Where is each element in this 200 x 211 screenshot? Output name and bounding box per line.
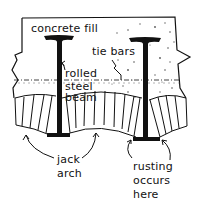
jack-arch-left xyxy=(15,94,56,135)
label-beam: beam xyxy=(65,91,97,104)
jack-arch-diagram: concrete fill tie bars rolled steel beam… xyxy=(0,0,200,211)
label-jack: jack xyxy=(56,153,80,166)
arrow-rusting-right xyxy=(162,140,170,160)
label-arch: arch xyxy=(57,167,82,180)
label-rusting: rusting xyxy=(133,160,173,173)
label-here: here xyxy=(133,188,159,201)
label-occurs: occurs xyxy=(133,174,170,187)
arrow-tie-bars xyxy=(112,60,121,80)
jack-arch-right xyxy=(149,95,187,137)
label-concrete-fill: concrete fill xyxy=(31,22,98,35)
arrow-jack-arch-left xyxy=(26,135,54,158)
label-tie-bars: tie bars xyxy=(92,45,135,58)
arrow-jack-arch-right xyxy=(82,133,96,158)
label-rolled: rolled xyxy=(65,67,97,80)
